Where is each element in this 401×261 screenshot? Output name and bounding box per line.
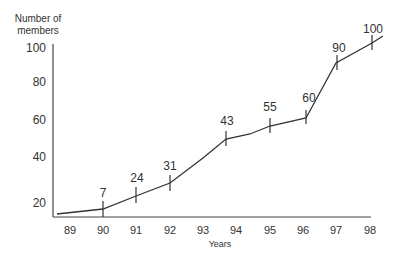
line-chart: Number of members 100 80 60 40 20 89 90 …: [0, 0, 401, 261]
data-label: 31: [163, 159, 177, 173]
data-label: 100: [363, 22, 383, 36]
x-tick-label: 94: [230, 224, 242, 236]
x-tick-label: 91: [130, 224, 142, 236]
data-label: 7: [100, 186, 107, 200]
x-tick-label: 90: [97, 224, 109, 236]
y-tick-label: 80: [33, 75, 47, 89]
x-tick-label: 98: [364, 224, 376, 236]
y-tick-label: 100: [26, 41, 46, 55]
x-tick-label: 89: [64, 224, 76, 236]
x-tick-label: 97: [330, 224, 342, 236]
data-label: 24: [130, 171, 144, 185]
y-axis-label-line1: Number of: [15, 13, 62, 24]
point-markers: [103, 35, 372, 217]
x-tick-label: 92: [164, 224, 176, 236]
y-tick-label: 40: [33, 150, 47, 164]
x-axis-label: Years: [209, 239, 232, 249]
x-tick-label: 96: [297, 224, 309, 236]
data-label: 43: [220, 114, 234, 128]
x-tick-label: 93: [197, 224, 209, 236]
data-label: 55: [263, 100, 277, 114]
x-tick-label: 95: [264, 224, 276, 236]
data-label: 60: [302, 91, 316, 105]
data-label: 90: [332, 41, 346, 55]
y-axis-label-line2: members: [17, 25, 59, 36]
y-tick-label: 60: [33, 113, 47, 127]
y-tick-label: 20: [33, 196, 47, 210]
